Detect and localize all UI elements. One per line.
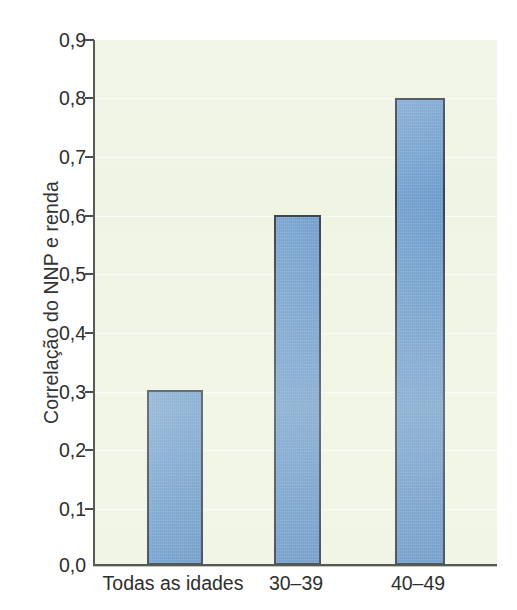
bar-texture xyxy=(276,217,319,563)
y-axis-tick-label: 0,4 xyxy=(38,322,86,345)
bar-texture xyxy=(397,100,443,563)
plot-area xyxy=(93,40,497,565)
x-axis-tick-label-group: Todas as idades 30–39 40–49 xyxy=(0,572,517,606)
bar-texture xyxy=(149,392,201,563)
y-axis-tick-label: 0,5 xyxy=(38,263,86,286)
x-axis-tick-label-30-39: 30–39 xyxy=(269,572,323,595)
bar-30-39[interactable] xyxy=(274,215,321,565)
bar-series-group xyxy=(95,40,499,565)
y-axis-tick-label: 0,7 xyxy=(38,146,86,169)
bar-40-49[interactable] xyxy=(395,98,445,565)
bar-chart-figure: Correlação do NNP e renda 0,9 0,8 0,7 0,… xyxy=(0,0,517,610)
x-axis-tick-label-todas-as-idades: Todas as idades xyxy=(103,572,244,595)
y-axis-tick-label-group: 0,9 0,8 0,7 0,6 0,5 0,4 0,3 0,2 0,1 0,0 xyxy=(38,0,86,610)
y-axis-tick-label: 0,2 xyxy=(38,439,86,462)
y-axis-tick-label: 0,6 xyxy=(38,205,86,228)
y-axis-tick-label: 0,8 xyxy=(38,87,86,110)
x-axis-line-shadow xyxy=(93,566,497,567)
y-axis-tick-label: 0,1 xyxy=(38,498,86,521)
y-axis-tick-label: 0,9 xyxy=(38,29,86,52)
bar-todas-as-idades[interactable] xyxy=(147,390,203,565)
y-axis-tick-label: 0,3 xyxy=(38,381,86,404)
x-axis-tick-label-40-49: 40–49 xyxy=(391,572,445,595)
